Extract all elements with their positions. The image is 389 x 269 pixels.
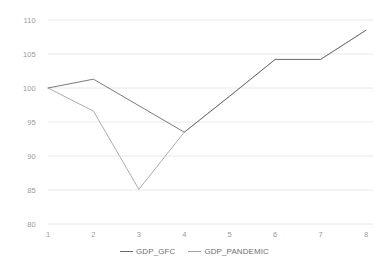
x-tick-label: 6 bbox=[267, 230, 283, 239]
x-tick-label: 4 bbox=[176, 230, 192, 239]
legend-line-icon bbox=[120, 251, 133, 252]
legend-item[interactable]: GDP_PANDEMIC bbox=[188, 247, 269, 256]
x-tick-label: 5 bbox=[222, 230, 238, 239]
legend-label: GDP_PANDEMIC bbox=[204, 247, 269, 256]
y-tick-label: 110 bbox=[14, 16, 36, 25]
y-tick-label: 95 bbox=[14, 118, 36, 127]
x-tick-label: 7 bbox=[313, 230, 329, 239]
x-tick-label: 8 bbox=[358, 230, 374, 239]
y-tick-label: 85 bbox=[14, 186, 36, 195]
gridlines bbox=[48, 20, 373, 224]
x-tick-label: 1 bbox=[40, 230, 56, 239]
chart-legend: GDP_GFCGDP_PANDEMIC bbox=[0, 247, 389, 256]
legend-line-icon bbox=[188, 251, 201, 252]
legend-label: GDP_GFC bbox=[136, 247, 175, 256]
x-tick-label: 3 bbox=[131, 230, 147, 239]
y-tick-label: 80 bbox=[14, 220, 36, 229]
x-tick-label: 2 bbox=[85, 230, 101, 239]
series-line-gdp-gfc bbox=[48, 30, 366, 132]
line-chart: 11010510095908580 12345678 GDP_GFCGDP_PA… bbox=[0, 0, 389, 269]
y-tick-label: 100 bbox=[14, 84, 36, 93]
plot-area bbox=[0, 0, 389, 269]
y-tick-label: 105 bbox=[14, 50, 36, 59]
y-tick-label: 90 bbox=[14, 152, 36, 161]
legend-item[interactable]: GDP_GFC bbox=[120, 247, 175, 256]
